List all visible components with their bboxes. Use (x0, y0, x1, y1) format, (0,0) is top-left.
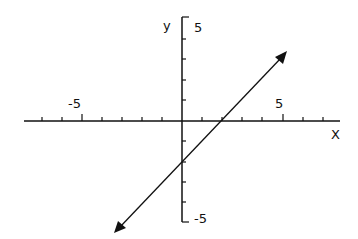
y-tick-label-5: 5 (194, 20, 202, 35)
x-tick-label-neg5: -5 (68, 96, 81, 111)
line-series (120, 58, 281, 227)
x-axis-label: X (331, 127, 340, 142)
coordinate-plane: -5 5 5 -5 y X (0, 0, 358, 239)
y-axis-ticks (182, 17, 189, 222)
y-axis-label: y (163, 18, 171, 33)
x-tick-label-5: 5 (275, 96, 283, 111)
y-tick-label-neg5: -5 (194, 211, 207, 226)
